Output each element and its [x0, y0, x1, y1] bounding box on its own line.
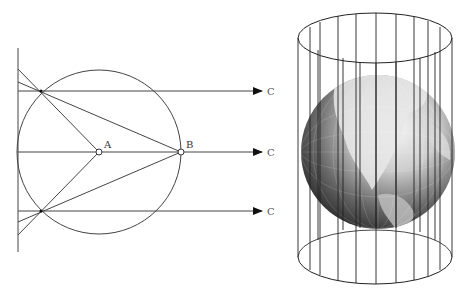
c-label-bottom: C	[267, 206, 275, 217]
ray-a-lower	[18, 152, 99, 235]
point-a-label: A	[103, 139, 112, 150]
c-label-middle: C	[267, 147, 275, 158]
intersection-point-upper	[40, 90, 43, 93]
cylinder-bottom-front-arc	[298, 257, 452, 284]
projection-construction-diagram	[17, 48, 262, 252]
point-b-label: B	[186, 139, 193, 150]
cylinder-bottom-back-arc	[298, 230, 452, 257]
c-label-top: C	[267, 86, 275, 97]
ray-a-upper	[18, 69, 99, 152]
point-b-marker	[178, 149, 184, 155]
earth-globe-image	[301, 75, 455, 229]
intersection-point-lower	[40, 210, 43, 213]
globe-cylinder-diagram	[298, 13, 455, 284]
point-a-marker	[96, 149, 102, 155]
figure-canvas: A B C C C	[0, 0, 471, 291]
ray-b-upper	[18, 82, 181, 152]
cylinder-top-ellipse	[298, 13, 452, 63]
